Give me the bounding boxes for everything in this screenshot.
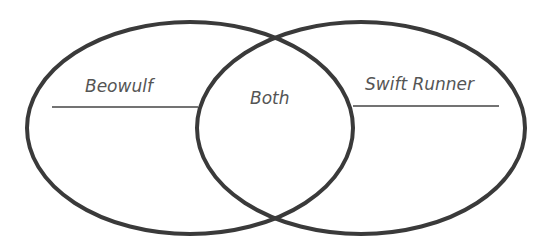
left-set-label: Beowulf (85, 76, 153, 96)
intersection-label: Both (250, 88, 290, 108)
left-circle-beowulf (27, 22, 353, 234)
venn-diagram (0, 0, 538, 252)
right-circle-swift-runner (197, 22, 525, 234)
right-set-label: Swift Runner (365, 74, 474, 94)
